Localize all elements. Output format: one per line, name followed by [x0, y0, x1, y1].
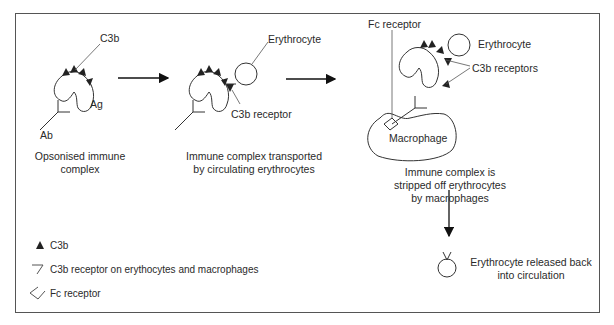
antibody-icon: [40, 100, 70, 130]
released-erythrocyte-icon: [438, 259, 456, 277]
label-erythrocyte: Erythrocyte: [268, 33, 321, 46]
opsonised-complex: [40, 44, 100, 130]
caption-stage4: Erythrocyte released backinto circulatio…: [468, 256, 594, 282]
c3b-icon: [70, 65, 78, 73]
label-erythrocyte-2: Erythrocyte: [478, 38, 531, 51]
legend-fc-receptor: Fc receptor: [50, 288, 101, 300]
label-ab: Ab: [40, 129, 53, 142]
label-fc-receptor: Fc receptor: [368, 18, 421, 31]
caption-stage2: Immune complex transportedby circulating…: [178, 150, 330, 176]
legend-c3b: C3b: [50, 240, 68, 252]
fc-receptor-icon: [384, 118, 398, 130]
legend-c3b-receptor: C3b receptor on erythocytes and macropha…: [50, 264, 258, 276]
filled-triangle-icon: [36, 241, 44, 249]
label-c3b: C3b: [100, 32, 119, 45]
label-c3b-receptor: C3b receptor: [231, 108, 292, 121]
c3b-receptor-icon: [32, 265, 43, 274]
c3b-icon: [78, 68, 86, 76]
label-macrophage: Macrophage: [389, 132, 447, 145]
caption-stage1: Opsonised immunecomplex: [24, 150, 136, 176]
label-c3b-receptors: C3b receptors: [472, 62, 538, 75]
caption-stage3: Immune complex isstripped off erythrocyt…: [388, 166, 512, 205]
erythrocyte-icon: [235, 63, 257, 85]
label-ag: Ag: [90, 98, 103, 111]
fc-receptor-icon: [30, 287, 45, 299]
